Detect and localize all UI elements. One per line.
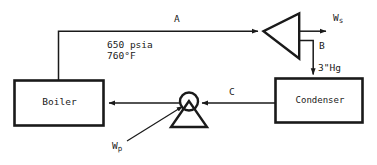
pipe-a-boiler-to-turbine	[59, 31, 259, 80]
pump-support-triangle	[171, 101, 207, 127]
diagram-canvas	[0, 0, 377, 165]
stream-label-a: A	[174, 13, 180, 25]
pipe-b-turbine-to-condenser	[300, 41, 314, 75]
shaft-work-label: Ws	[333, 12, 343, 24]
boiler-temperature-label: 760°F	[107, 50, 136, 62]
stream-label-b: B	[319, 40, 325, 52]
condenser-pressure-label: 3"Hg	[318, 62, 341, 74]
turbine-shape	[264, 14, 300, 59]
shaft-work-symbol: W	[333, 12, 339, 23]
pump-work-subscript: p	[118, 144, 123, 153]
stream-label-c: C	[229, 86, 235, 98]
pump-work-symbol: W	[112, 140, 118, 151]
rankine-cycle-diagram: Boiler Condenser A B C 650 psia 760°F 3"…	[0, 0, 377, 165]
shaft-work-subscript: s	[339, 16, 344, 25]
boiler-label: Boiler	[37, 96, 82, 108]
pump-work-label: Wp	[112, 140, 122, 152]
boiler-pressure-label: 650 psia	[107, 39, 153, 51]
condenser-label: Condenser	[290, 95, 350, 106]
